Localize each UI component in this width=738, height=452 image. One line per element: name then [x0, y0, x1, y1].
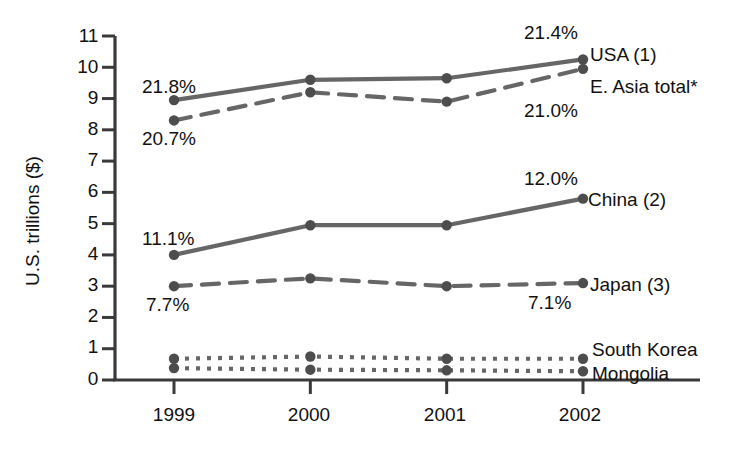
- series-label-japan: Japan (3): [590, 274, 670, 296]
- line-chart-figure: U.S. trillions ($) 11 10 9 8 7 6 5 4 3 2…: [0, 0, 738, 452]
- annotation-japan-1999: 7.7%: [146, 294, 189, 316]
- y-axis-title: U.S. trillions ($): [22, 126, 44, 316]
- data-point-mongolia-1999: [169, 363, 179, 373]
- y-tick-label-6: 6: [56, 180, 98, 202]
- data-point-japan-2001: [441, 281, 451, 291]
- y-tick-label-4: 4: [56, 243, 98, 265]
- data-point-china-2002: [578, 193, 588, 203]
- annotation-easia-1999: 20.7%: [142, 128, 196, 150]
- x-tick-label-2002: 2002: [545, 404, 615, 426]
- series-line-e-asia-total: [174, 69, 583, 121]
- y-tick-label-5: 5: [56, 212, 98, 234]
- data-point-e-asia-total-2000: [305, 87, 315, 97]
- series-label-korea: South Korea: [592, 339, 698, 361]
- annotation-china-2002: 12.0%: [524, 168, 578, 190]
- data-point-e-asia-total-1999: [169, 115, 179, 125]
- series-layer: [174, 59, 583, 371]
- series-label-mongolia: Mongolia: [592, 363, 669, 385]
- data-point-usa-2000: [305, 75, 315, 85]
- series-line-mongolia: [174, 368, 583, 371]
- series-label-usa: USA (1): [590, 44, 657, 66]
- data-point-mongolia-2002: [578, 366, 588, 376]
- data-point-south-korea-2000: [305, 351, 315, 361]
- y-tick-label-2: 2: [56, 305, 98, 327]
- data-point-e-asia-total-2002: [578, 64, 588, 74]
- annotation-usa-1999: 21.8%: [142, 76, 196, 98]
- series-label-china: China (2): [588, 189, 666, 211]
- series-line-japan: [174, 278, 583, 286]
- data-point-usa-2001: [441, 73, 451, 83]
- data-point-china-2001: [441, 220, 451, 230]
- y-tick-label-9: 9: [56, 87, 98, 109]
- y-tick-label-8: 8: [56, 118, 98, 140]
- data-point-e-asia-total-2001: [441, 96, 451, 106]
- data-point-south-korea-1999: [169, 354, 179, 364]
- data-point-usa-2002: [578, 54, 588, 64]
- annotation-easia-2002: 21.0%: [524, 100, 578, 122]
- annotation-japan-2002: 7.1%: [528, 292, 571, 314]
- y-tick-label-3: 3: [56, 274, 98, 296]
- y-tick-label-0: 0: [56, 368, 98, 390]
- data-point-china-1999: [169, 250, 179, 260]
- data-point-mongolia-2000: [305, 364, 315, 374]
- x-tick-label-2001: 2001: [410, 404, 480, 426]
- y-tick-label-1: 1: [56, 336, 98, 358]
- data-point-south-korea-2002: [578, 354, 588, 364]
- series-label-easia: E. Asia total*: [590, 76, 698, 98]
- y-tick-label-7: 7: [56, 149, 98, 171]
- annotation-china-1999: 11.1%: [142, 228, 194, 250]
- data-point-mongolia-2001: [441, 365, 451, 375]
- data-point-china-2000: [305, 220, 315, 230]
- y-tick-label-10: 10: [56, 56, 98, 78]
- y-tick-label-11: 11: [56, 25, 98, 47]
- data-point-japan-2000: [305, 273, 315, 283]
- series-line-china: [174, 199, 583, 255]
- data-point-japan-1999: [169, 281, 179, 291]
- data-point-japan-2002: [578, 278, 588, 288]
- series-line-south-korea: [174, 357, 583, 359]
- series-line-usa: [174, 59, 583, 100]
- x-tick-label-1999: 1999: [139, 404, 209, 426]
- data-point-south-korea-2001: [441, 354, 451, 364]
- x-tick-label-2000: 2000: [274, 404, 344, 426]
- annotation-usa-2002: 21.4%: [524, 22, 578, 44]
